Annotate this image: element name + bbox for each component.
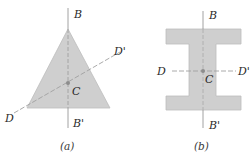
caption-a: (a) <box>60 140 74 152</box>
label-c: C <box>205 73 214 86</box>
label-b: B <box>208 9 217 22</box>
caption-b: (b) <box>194 140 209 152</box>
triangle-shape <box>27 29 110 108</box>
label-d-prime: D' <box>113 45 126 58</box>
label-b: B <box>73 8 82 21</box>
label-b-prime: B' <box>72 117 84 130</box>
panel-a: B D' C D B' (a) <box>4 8 126 152</box>
centroid-point <box>66 81 70 85</box>
label-d-prime: D' <box>237 65 250 78</box>
label-d: D <box>4 112 14 125</box>
panel-b: B D C D' B' (b) <box>156 9 250 152</box>
label-d: D <box>156 65 166 78</box>
centroid-axes-figure: B D' C D B' (a) B D C D' B' (b) <box>0 0 252 165</box>
label-c: C <box>72 85 81 98</box>
label-b-prime: B' <box>208 119 220 132</box>
